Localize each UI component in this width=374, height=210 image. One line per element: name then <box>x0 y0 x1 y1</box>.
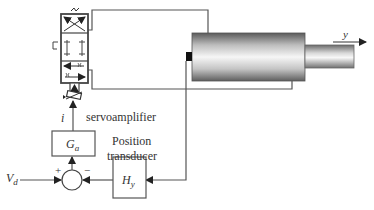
summing-junction <box>62 170 82 190</box>
servoamplifier-label: servoamplifier <box>86 110 156 124</box>
position-transducer-label-1: Position <box>112 134 151 148</box>
output-label: y <box>342 28 348 40</box>
piston-rod <box>305 45 354 68</box>
servo-control-diagram: y Hy + − Vd Ga i servoamplifier Position… <box>0 0 374 210</box>
position-transducer-label-2: transducer <box>107 149 157 163</box>
minus-sign: − <box>84 164 90 176</box>
input-label: Vd <box>6 171 18 187</box>
hydraulic-cylinder <box>186 33 354 81</box>
plus-sign: + <box>55 164 61 176</box>
line-port-a <box>88 10 208 33</box>
current-label: i <box>61 111 64 125</box>
servo-valve <box>53 8 88 99</box>
position-sensor-marker <box>186 52 192 61</box>
cylinder-body <box>192 33 305 81</box>
